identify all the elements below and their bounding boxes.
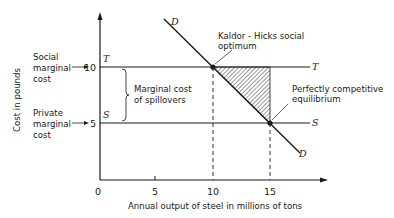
private-label-1: Private xyxy=(33,108,63,118)
competitive-label-1: Perfectly competitive xyxy=(292,84,383,94)
private-label-2: marginal xyxy=(33,119,71,129)
T-left-label: T xyxy=(103,53,110,64)
S-right-label: S xyxy=(312,117,319,128)
kaldor-hicks-point xyxy=(210,64,215,69)
x-tick-5: 5 xyxy=(152,186,158,197)
competitive-label-2: equilibrium xyxy=(292,94,341,104)
y-axis-arrow-icon xyxy=(98,12,103,20)
diagram-canvas: 0 5 10 15 10 5 Annual output of steel in… xyxy=(0,0,394,218)
y-tick-10: 10 xyxy=(84,62,96,73)
y-axis xyxy=(98,12,103,180)
D-top-label: D xyxy=(170,16,179,27)
S-left-label: S xyxy=(103,109,110,120)
x-axis xyxy=(100,178,328,183)
kaldor-hicks-label-1: Kaldor - Hicks social xyxy=(218,31,304,41)
spillover-label-2: of spillovers xyxy=(134,95,186,105)
spillover-bracket xyxy=(122,69,129,121)
x-tick-15: 15 xyxy=(264,186,276,197)
private-label-3: cost xyxy=(33,130,51,140)
x-axis-arrow-icon xyxy=(320,178,328,183)
x-tick-10: 10 xyxy=(207,186,219,197)
x-tick-0: 0 xyxy=(95,186,101,197)
spillover-label-1: Marginal cost xyxy=(134,84,192,94)
y-axis-label: Cost in pounds xyxy=(12,68,22,132)
D-bottom-label: D xyxy=(298,148,307,159)
social-label-3: cost xyxy=(33,74,51,84)
social-label-2: marginal xyxy=(33,63,71,73)
competitive-equilibrium-point xyxy=(267,120,272,125)
arrow-right-icon xyxy=(84,121,89,125)
y-tick-5: 5 xyxy=(90,118,96,129)
T-right-label: T xyxy=(312,61,319,72)
kaldor-hicks-label-2: optimum xyxy=(218,41,257,51)
social-label-1: Social xyxy=(33,52,58,62)
x-axis-label: Annual output of steel in millions of to… xyxy=(128,201,303,211)
